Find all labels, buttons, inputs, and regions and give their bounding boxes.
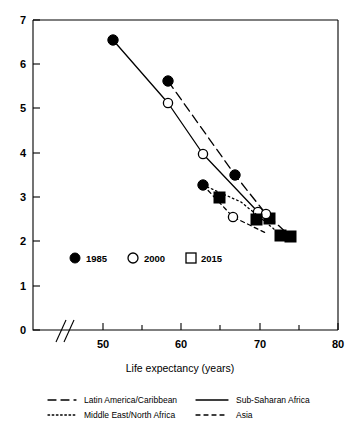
data-point-latin-america-2000 — [261, 209, 270, 218]
x-axis-ticks — [103, 323, 338, 330]
legend-label-2000: 2000 — [144, 253, 165, 264]
x-tick-label-80: 80 — [332, 338, 344, 350]
series-sub-saharan-africa — [108, 35, 275, 224]
fertility-life-expectancy-chart: 7 6 5 4 3 2 1 0 50 60 70 — [0, 0, 348, 436]
legend-label-middle-east: Middle East/North Africa — [84, 410, 175, 420]
series-middle-east-north-africa — [198, 180, 286, 241]
data-point-middle-east-2015-a — [251, 214, 262, 225]
legend-label-sub-saharan: Sub-Saharan Africa — [236, 395, 310, 405]
y-tick-label-1: 1 — [20, 280, 26, 292]
legend-marker-filled-circle-icon — [70, 253, 80, 263]
y-axis-ticks — [33, 20, 40, 330]
y-tick-label-2: 2 — [20, 235, 26, 247]
y-tick-label-0: 0 — [20, 324, 26, 336]
y-tick-label-5: 5 — [20, 102, 26, 114]
legend-label-2015: 2015 — [201, 253, 223, 264]
plot-frame — [33, 20, 338, 330]
y-tick-label-7: 7 — [20, 14, 26, 26]
y-axis-labels: 7 6 5 4 3 2 1 0 — [20, 14, 27, 336]
x-axis-labels: 50 60 70 80 — [97, 338, 344, 350]
legend-label-1985: 1985 — [86, 253, 108, 264]
data-point-sub-saharan-1985 — [108, 35, 118, 45]
data-point-latin-america-1985 — [163, 76, 173, 86]
x-axis-break-icon — [56, 320, 74, 342]
chart-svg: 7 6 5 4 3 2 1 0 50 60 70 — [0, 0, 348, 436]
data-point-sub-saharan-2000-b — [198, 149, 207, 158]
marker-legend: 1985 2000 2015 — [70, 253, 223, 264]
x-tick-label-60: 60 — [175, 338, 187, 350]
data-point-sub-saharan-2000-a — [163, 98, 172, 107]
series-line-sub-saharan-africa — [113, 40, 270, 219]
data-point-middle-east-2000 — [214, 192, 225, 203]
x-axis-title: Life expectancy (years) — [126, 362, 235, 374]
data-point-latin-america-2015 — [285, 231, 296, 242]
series-legend: Latin America/Caribbean Sub-Saharan Afri… — [48, 395, 310, 420]
y-tick-label-3: 3 — [20, 191, 26, 203]
data-point-middle-east-2015-b — [275, 230, 286, 241]
legend-marker-open-circle-icon — [128, 253, 138, 263]
legend-marker-open-square-icon — [186, 253, 196, 263]
x-tick-label-50: 50 — [97, 338, 109, 350]
data-point-asia-2000 — [228, 212, 237, 221]
y-tick-label-6: 6 — [20, 58, 26, 70]
axis-lines — [33, 20, 338, 330]
x-tick-label-70: 70 — [254, 338, 266, 350]
legend-label-asia: Asia — [236, 410, 253, 420]
legend-label-latin-america: Latin America/Caribbean — [84, 395, 177, 405]
y-tick-label-4: 4 — [20, 147, 27, 159]
data-point-latin-america-1985-b — [230, 170, 240, 180]
